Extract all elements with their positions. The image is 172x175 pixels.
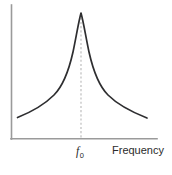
- peak-frequency-tick-label: f0: [76, 145, 84, 160]
- resonance-curve-figure: f0 Frequency: [0, 0, 172, 175]
- plot-area: f0 Frequency: [0, 0, 172, 175]
- cropped-caption-text: [0, 165, 172, 175]
- resonance-response-curve: [18, 13, 148, 118]
- peak-frequency-subscript: 0: [80, 151, 84, 160]
- x-axis-label: Frequency: [112, 144, 164, 156]
